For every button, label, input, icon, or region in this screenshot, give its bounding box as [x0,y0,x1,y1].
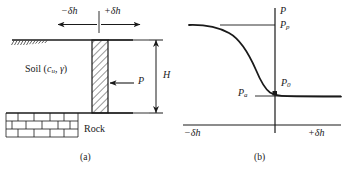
active-pressure-subscript: a [244,91,248,99]
soil-text-prefix: Soil ( [25,63,47,74]
label-minus-delta-h: −δh [61,6,77,16]
label-x-axis-plus-delta-h: +δh [308,128,324,138]
label-active-pressure: Pa [238,88,248,99]
ground-hatch-marks [12,41,48,45]
caption-a: (a) [80,152,91,162]
at-rest-point-marker [273,91,278,96]
panel-a-retaining-wall-diagram: −δh +δh Soil (cu, γ) Rock P H (a) [0,0,178,174]
label-x-axis-minus-delta-h: −δh [184,128,200,138]
figure-root: −δh +δh Soil (cu, γ) Rock P H (a) P Pp P… [0,0,349,174]
soil-text-suffix: ) [64,63,67,74]
label-force-P: P [138,76,144,86]
label-at-rest-pressure: P0 [281,78,291,89]
at-rest-pressure-subscript: 0 [287,81,291,89]
retaining-wall [92,40,108,113]
rock-brick-pattern [6,113,78,137]
panel-b-pressure-displacement-chart: P Pp P0 Pa −δh +δh (b) [175,0,349,174]
caption-b: (b) [254,152,265,162]
panel-b-svg [175,0,349,174]
label-passive-pressure: Pp [280,20,290,31]
panel-a-svg [0,0,178,174]
label-plus-delta-h: +δh [104,6,120,16]
label-axis-P: P [280,6,286,16]
label-rock: Rock [84,124,105,134]
passive-pressure-subscript: p [286,23,290,31]
label-soil: Soil (cu, γ) [25,64,67,75]
label-height-H: H [163,70,170,80]
pressure-displacement-curve [189,25,341,97]
